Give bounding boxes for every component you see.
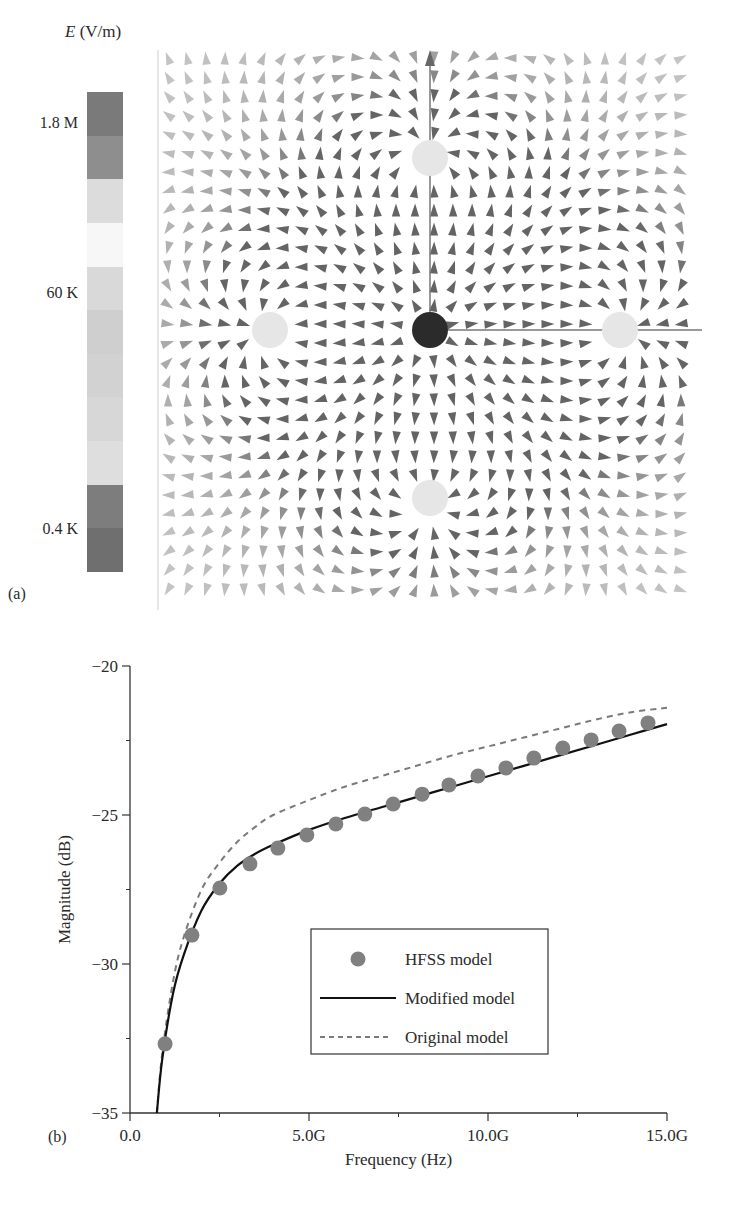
field-arrow-icon <box>508 488 516 502</box>
field-arrow-icon <box>485 431 493 445</box>
field-arrow-icon <box>502 393 515 405</box>
field-arrow-icon <box>635 455 649 464</box>
field-arrow-icon <box>293 54 306 66</box>
series-modified-model <box>157 724 667 1113</box>
field-arrow-icon <box>336 185 344 199</box>
field-arrow-icon <box>578 469 591 480</box>
field-arrow-icon <box>541 376 555 384</box>
field-arrow-icon <box>351 53 364 61</box>
field-arrow-icon <box>275 582 285 595</box>
field-arrow-icon <box>616 544 628 556</box>
field-arrow-icon <box>541 449 552 462</box>
field-arrow-icon <box>239 356 247 370</box>
field-arrow-icon <box>655 433 667 445</box>
field-arrow-icon <box>352 356 366 364</box>
field-arrow-icon <box>295 109 303 123</box>
field-arrow-icon <box>200 472 213 480</box>
field-arrow-icon <box>218 318 232 326</box>
field-arrow-icon <box>299 488 307 502</box>
field-arrow-icon <box>526 128 535 142</box>
data-point <box>612 723 627 738</box>
field-arrow-icon <box>162 508 176 516</box>
field-arrow-icon <box>655 492 669 500</box>
field-arrow-icon <box>353 263 366 274</box>
field-arrow-icon <box>579 506 590 519</box>
field-arrow-icon <box>656 340 670 349</box>
field-arrow-icon <box>333 264 346 274</box>
field-arrow-icon <box>525 110 536 123</box>
field-arrow-icon <box>429 355 437 368</box>
field-arrow-icon <box>502 283 515 293</box>
field-arrow-icon <box>504 204 512 218</box>
field-arrow-icon <box>412 393 420 407</box>
field-arrow-icon <box>261 356 269 370</box>
field-arrow-icon <box>598 206 611 214</box>
field-arrow-icon <box>277 279 290 290</box>
field-arrow-icon <box>222 544 232 557</box>
field-arrow-icon <box>486 507 499 518</box>
field-arrow-icon <box>597 149 610 161</box>
field-arrow-icon <box>617 582 627 595</box>
data-point <box>498 760 513 775</box>
field-arrow-icon <box>314 282 327 290</box>
field-arrow-icon <box>276 261 290 269</box>
field-arrow-icon <box>522 449 531 463</box>
field-arrow-icon <box>203 563 213 577</box>
field-arrow-icon <box>450 468 459 482</box>
field-arrow-icon <box>467 51 480 63</box>
field-arrow-icon <box>200 186 213 194</box>
field-arrow-icon <box>184 394 192 407</box>
field-arrow-icon <box>219 471 233 479</box>
field-arrow-icon <box>181 186 195 194</box>
field-arrow-icon <box>636 473 649 481</box>
field-arrow-icon <box>542 166 550 180</box>
field-arrow-icon <box>617 375 627 388</box>
field-arrow-icon <box>505 185 513 198</box>
field-arrow-icon <box>654 93 667 103</box>
field-arrow-icon <box>448 242 456 256</box>
field-arrow-icon <box>351 586 364 594</box>
field-arrow-icon <box>465 321 478 329</box>
field-arrow-icon <box>278 167 289 180</box>
field-arrow-icon <box>351 566 364 574</box>
field-arrow-icon <box>369 149 382 160</box>
field-arrow-icon <box>389 167 400 180</box>
field-arrow-icon <box>259 487 271 499</box>
field-arrow-icon <box>449 566 460 579</box>
field-arrow-icon <box>466 412 474 426</box>
field-arrow-icon <box>466 568 479 578</box>
field-arrow-icon <box>412 299 422 312</box>
field-arrow-icon <box>276 564 284 578</box>
field-arrow-icon <box>489 469 497 483</box>
field-arrow-icon <box>257 207 271 215</box>
field-arrow-icon <box>447 261 455 275</box>
y-tick-label: −25 <box>91 806 118 825</box>
field-arrow-icon <box>314 376 327 384</box>
field-arrow-icon <box>165 71 175 84</box>
field-arrow-icon <box>295 378 308 386</box>
field-arrow-icon <box>221 375 229 388</box>
field-arrow-icon <box>617 563 628 576</box>
field-arrow-icon <box>657 394 665 408</box>
field-arrow-icon <box>164 394 172 407</box>
field-arrow-icon <box>356 204 364 218</box>
field-arrow-icon <box>162 150 176 158</box>
field-arrow-icon <box>636 186 650 194</box>
field-arrow-icon <box>466 529 479 537</box>
field-arrow-icon <box>655 113 669 121</box>
field-arrow-icon <box>544 72 556 84</box>
field-arrow-icon <box>332 584 346 592</box>
field-arrow-icon <box>242 545 250 559</box>
field-arrow-icon <box>616 110 628 122</box>
conductor-left <box>252 312 288 348</box>
field-arrow-icon <box>560 487 570 500</box>
field-arrow-icon <box>375 223 383 237</box>
field-arrow-icon <box>374 204 382 217</box>
field-arrow-icon <box>655 546 669 554</box>
field-arrow-icon <box>635 545 648 555</box>
field-arrow-icon <box>183 221 195 233</box>
field-arrow-icon <box>166 241 174 255</box>
field-arrow-icon <box>413 374 421 388</box>
field-arrow-icon <box>313 110 324 123</box>
field-arrow-icon <box>506 469 514 482</box>
